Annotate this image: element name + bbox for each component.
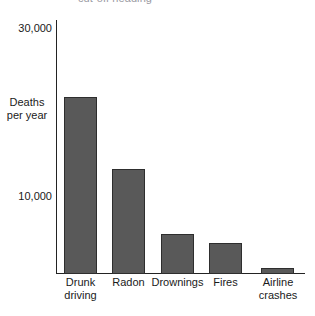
y-axis-tick-label-30000: 30,000 xyxy=(4,22,52,34)
x-axis-label-airline-crashes-line-2: crashes xyxy=(248,289,308,302)
y-axis-title-line-2: per year xyxy=(2,109,52,122)
bar-chart: cut-off heading 30,000 10,000 Deaths per… xyxy=(0,0,315,316)
x-axis-labels: Drunk driving Radon Drownings Fires Airl… xyxy=(56,276,315,316)
cut-off-title-strip: cut-off heading xyxy=(0,0,315,7)
bar-airline-crashes xyxy=(261,268,294,274)
x-axis-label-fires-line-1: Fires xyxy=(213,276,237,288)
x-axis-label-drunk-driving-line-1: Drunk xyxy=(66,276,95,288)
bar-radon xyxy=(112,169,145,274)
x-axis-label-radon-line-1: Radon xyxy=(112,276,144,288)
x-axis-label-airline-crashes-line-1: Airline xyxy=(263,276,294,288)
bar-drunk-driving xyxy=(64,97,97,274)
x-axis-label-airline-crashes: Airline crashes xyxy=(248,276,308,302)
bar-fires xyxy=(209,243,242,274)
y-axis-title-line-1: Deaths xyxy=(10,96,45,108)
y-axis-title: Deaths per year xyxy=(2,96,52,121)
x-axis-label-drunk-driving-line-2: driving xyxy=(53,289,108,302)
x-axis-label-drownings-line-1: Drownings xyxy=(152,276,204,288)
cut-off-title-text: cut-off heading xyxy=(78,0,152,4)
y-axis-tick-label-10000: 10,000 xyxy=(4,190,52,202)
x-axis-label-fires: Fires xyxy=(198,276,253,289)
x-axis-label-drunk-driving: Drunk driving xyxy=(53,276,108,302)
bar-drownings xyxy=(161,234,194,274)
plot-area xyxy=(56,20,305,274)
